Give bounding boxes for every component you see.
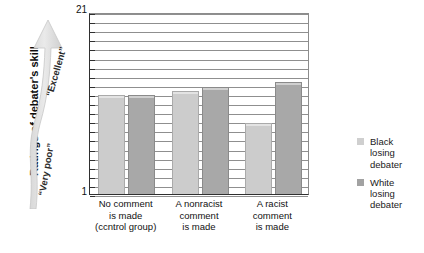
plot-area <box>89 13 309 195</box>
legend-swatch <box>357 179 364 186</box>
x-axis-label: A racistcommentis made <box>229 198 315 233</box>
scale-arrow: “Excellent” “Very poor” <box>20 4 78 209</box>
x-axis-label-line: A racist <box>229 198 315 210</box>
x-axis-label-line: comment <box>229 210 315 222</box>
bar <box>275 82 302 194</box>
legend-item[interactable]: Whitelosingdebater <box>357 177 423 211</box>
bar <box>172 91 199 194</box>
legend: BlacklosingdebaterWhitelosingdebater <box>357 136 423 218</box>
legend-label-line: losing <box>370 188 423 199</box>
legend-item[interactable]: Blacklosingdebater <box>357 136 423 170</box>
legend-swatch <box>357 138 364 145</box>
y-axis-max-label: 21 <box>57 4 87 15</box>
y-axis-min-label: 1 <box>57 186 87 197</box>
gridline <box>90 196 308 197</box>
legend-label-line: Black <box>370 136 423 147</box>
bar <box>245 123 272 194</box>
bar <box>128 95 155 194</box>
x-axis-label-line: is made <box>229 221 315 233</box>
x-axis-labels: No commentis made(ccntrol group)A nonrac… <box>89 198 309 248</box>
bar-chart-figure: Ratings of debater's skill “Excellent” “… <box>0 0 424 253</box>
legend-label-line: White <box>370 177 423 188</box>
bar <box>98 95 125 194</box>
legend-label-line: debater <box>370 159 423 170</box>
legend-label-line: losing <box>370 147 423 158</box>
legend-label-line: debater <box>370 199 423 210</box>
y-axis-tick <box>90 196 95 197</box>
bar <box>202 87 229 194</box>
bars-container <box>90 14 308 194</box>
